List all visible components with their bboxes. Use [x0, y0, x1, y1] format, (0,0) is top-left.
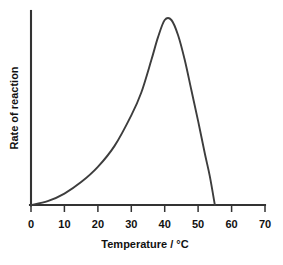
- reaction-rate-curve: [31, 18, 215, 205]
- reaction-rate-temperature-chart: 0 10 20 30 40 50 60 70 Temperature / °C …: [0, 0, 283, 265]
- tick-label-10: 10: [58, 218, 70, 230]
- tick-label-40: 40: [159, 218, 171, 230]
- tick-label-20: 20: [92, 218, 104, 230]
- tick-label-60: 60: [225, 218, 237, 230]
- tick-label-0: 0: [28, 218, 34, 230]
- tick-label-50: 50: [192, 218, 204, 230]
- tick-label-70: 70: [259, 218, 271, 230]
- y-axis-title: Rate of reaction: [8, 66, 20, 149]
- tick-label-30: 30: [125, 218, 137, 230]
- chart-canvas: 0 10 20 30 40 50 60 70 Temperature / °C …: [0, 0, 283, 265]
- x-axis-title: Temperature / °C: [101, 238, 188, 250]
- x-axis-tick-labels: 0 10 20 30 40 50 60 70: [28, 218, 271, 230]
